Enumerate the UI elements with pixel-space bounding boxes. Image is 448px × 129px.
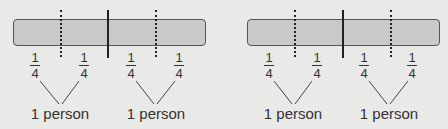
- diagram-right: 1 4 1 4 1 4 1 4 1 person 1 person: [234, 0, 448, 129]
- diagram-left: 1 4 1 4 1 4 1 4 1 person 1 person: [0, 0, 224, 129]
- group-label: 1 person: [349, 105, 429, 122]
- group-label: 1 person: [20, 105, 100, 122]
- group-label: 1 person: [253, 105, 333, 122]
- group-label: 1 person: [116, 105, 196, 122]
